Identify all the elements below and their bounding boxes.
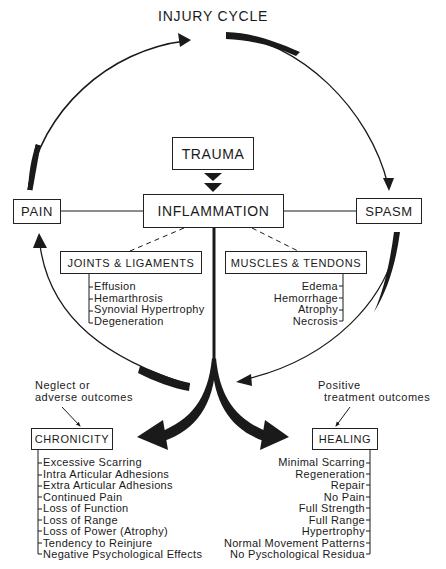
note-line: Positive	[318, 379, 430, 391]
note-line: treatment outcomes	[324, 391, 430, 403]
list-item: Minimal Scarring	[224, 457, 365, 469]
double-chevron-icon	[204, 173, 222, 192]
list-item: Synovial Hypertrophy	[94, 304, 205, 316]
healing-items-list: Minimal Scarring Regeneration Repair No …	[224, 457, 365, 561]
healing-bracket	[366, 450, 370, 554]
list-item: Atrophy	[274, 304, 338, 316]
positive-note-arrow	[336, 407, 350, 426]
positive-note: Positive treatment outcomes	[318, 379, 430, 403]
central-stem	[213, 228, 216, 360]
muscles-bracket	[339, 274, 343, 321]
list-item: Negative Psychological Effects	[43, 549, 202, 561]
joints-bracket	[89, 274, 93, 323]
list-item: Loss of Function	[43, 503, 202, 515]
to-healing-arrow	[212, 358, 289, 450]
list-item: Effusion	[94, 281, 205, 293]
joints-ligaments-node: JOINTS & LIGAMENTS	[60, 251, 202, 274]
note-line: adverse outcomes	[35, 391, 133, 403]
list-item: Degeneration	[94, 316, 205, 328]
list-item: Full Strength	[224, 503, 365, 515]
chronicity-node: CHRONICITY	[31, 428, 113, 450]
muscles-tendons-node: MUSCLES & TENDONS	[225, 251, 367, 274]
inflammation-joints-dashed	[130, 228, 184, 251]
spasm-node: SPASM	[356, 198, 422, 224]
neglect-note-arrow	[62, 407, 80, 426]
list-item: Extra Articular Adhesions	[43, 480, 202, 492]
chronicity-bracket	[38, 450, 42, 554]
list-item: Edema	[274, 281, 338, 293]
note-line: Neglect or	[35, 379, 133, 391]
healing-node: HEALING	[312, 428, 378, 450]
joints-items-list: Effusion Hemarthrosis Synovial Hypertrop…	[94, 281, 205, 327]
pain-to-top-arrow	[28, 33, 191, 190]
list-item: Necrosis	[274, 316, 338, 328]
trauma-node: TRAUMA	[172, 137, 254, 170]
neglect-note: Neglect or adverse outcomes	[35, 379, 133, 403]
list-item: Loss of Power (Atrophy)	[43, 526, 202, 538]
inflammation-muscles-dashed	[252, 228, 298, 251]
list-item: Excessive Scarring	[43, 457, 202, 469]
list-item: Hypertrophy	[224, 526, 365, 538]
inflammation-node: INFLAMMATION	[143, 194, 284, 228]
list-item: Repair	[224, 480, 365, 492]
list-item: No Pyschological Residua	[224, 549, 365, 561]
pain-node: PAIN	[13, 199, 61, 224]
chronicity-items-list: Excessive Scarring Intra Articular Adhes…	[43, 457, 202, 561]
muscles-items-list: Edema Hemorrhage Atrophy Necrosis	[274, 281, 338, 327]
diagram-title: INJURY CYCLE	[158, 8, 268, 24]
